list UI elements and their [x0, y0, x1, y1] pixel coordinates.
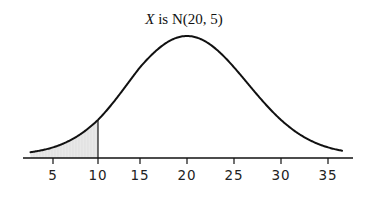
- title-rest: is N(20, 5): [154, 11, 222, 28]
- x-axis-ticks: 5101520253035: [48, 158, 337, 183]
- x-tick-label: 10: [88, 167, 107, 183]
- x-tick-label: 15: [130, 167, 149, 183]
- x-tick-label: 5: [48, 167, 58, 183]
- x-tick-label: 35: [318, 167, 337, 183]
- x-tick-label: 20: [177, 167, 196, 183]
- normal-distribution-chart: X is N(20, 5) 5101520253035: [0, 0, 377, 198]
- density-curve: [31, 36, 343, 152]
- chart-title: X is N(20, 5): [144, 11, 223, 28]
- x-tick-label: 30: [271, 167, 290, 183]
- shaded-tail-area: [31, 120, 99, 158]
- x-tick-label: 25: [224, 167, 243, 183]
